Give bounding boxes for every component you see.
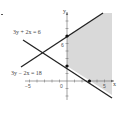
inequality-graph: 3y + 2x = 6 3y − 2x = 18 x y −5 0 5 6 [0, 0, 118, 114]
y-axis-label: y [63, 8, 66, 14]
label-lower-line: 3y − 2x = 18 [11, 70, 42, 76]
tick-label-0: 0 [60, 83, 63, 89]
y-axis-arrow-icon [66, 12, 68, 15]
tick-label-5: 5 [103, 83, 106, 89]
point-0-2 [65, 64, 68, 67]
tick-label-y6: 6 [61, 42, 64, 48]
label-upper-line: 3y + 2x = 6 [13, 29, 41, 35]
point-3-0 [88, 79, 91, 82]
tick-label-neg5: −5 [25, 83, 31, 89]
x-axis-label: x [113, 81, 116, 87]
figure-marker [1, 14, 3, 15]
point-0-6 [65, 34, 68, 37]
